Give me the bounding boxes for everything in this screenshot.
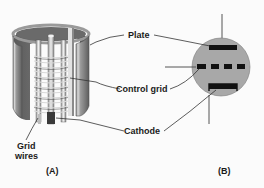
grid-dash-2 xyxy=(211,64,219,69)
leader-cathode-b xyxy=(164,90,216,131)
cathode-rod xyxy=(48,36,54,124)
triode-symbol xyxy=(165,14,250,124)
cathode-electrode xyxy=(209,84,237,89)
plate-electrode xyxy=(209,45,237,50)
plate-right-section xyxy=(76,36,89,116)
grid-dash-4 xyxy=(237,64,245,69)
grid-dash-3 xyxy=(224,64,232,69)
cathode-top xyxy=(48,35,54,38)
leader-plate-b xyxy=(154,35,210,46)
caption-panel-b: (B) xyxy=(218,166,231,176)
triode-figure: Plate Control grid Cathode Grid wires (A… xyxy=(0,0,264,188)
leader-grid-wires xyxy=(26,118,38,140)
cutaway-tube xyxy=(13,25,89,124)
label-plate: Plate xyxy=(128,30,150,40)
plate-highlight xyxy=(68,28,72,116)
diagram-graphics xyxy=(0,0,264,188)
leader-plate-a xyxy=(90,35,124,45)
label-control-grid: Control grid xyxy=(116,84,168,94)
grid-dash-1 xyxy=(197,64,206,69)
label-grid-wires-line2: wires xyxy=(15,151,38,161)
grid-rod-base xyxy=(38,114,41,124)
cathode-base xyxy=(47,112,55,124)
label-cathode: Cathode xyxy=(124,126,160,136)
plate-left-section xyxy=(13,36,22,118)
caption-panel-a: (A) xyxy=(46,166,59,176)
plate-edge xyxy=(72,28,74,116)
label-grid-wires-line1: Grid xyxy=(17,141,36,151)
